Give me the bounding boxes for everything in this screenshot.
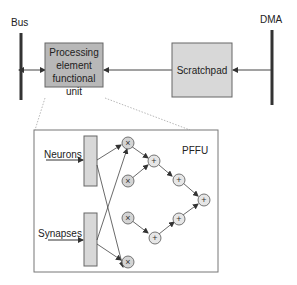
scratchpad-label: Scratchpad bbox=[172, 64, 232, 77]
dma-label: DMA bbox=[260, 14, 282, 25]
add-icon: + bbox=[176, 214, 181, 224]
pefu-label-line3: functional unit bbox=[45, 72, 103, 98]
synapses-label: Synapses bbox=[38, 228, 82, 239]
bus-label: Bus bbox=[11, 17, 28, 28]
zoom-line-left bbox=[35, 98, 45, 130]
multiply-icon: × bbox=[125, 138, 130, 148]
add-icon: + bbox=[152, 233, 157, 243]
neurons-label: Neurons bbox=[44, 149, 82, 160]
pefu-label: Processing element functional unit bbox=[45, 46, 103, 98]
add-icon: + bbox=[151, 156, 156, 166]
multiply-icon: × bbox=[125, 176, 130, 186]
add-icon: + bbox=[201, 195, 206, 205]
multiply-icon: × bbox=[125, 213, 130, 223]
architecture-diagram: × × × × + + + + + bbox=[0, 0, 297, 285]
zoom-line-right bbox=[105, 98, 190, 130]
multiply-icon: × bbox=[125, 257, 130, 267]
pefu-label-line1: Processing bbox=[45, 46, 103, 59]
neurons-buffer bbox=[84, 136, 97, 186]
synapses-buffer bbox=[84, 213, 97, 266]
add-icon: + bbox=[176, 175, 181, 185]
pffu-title: PFFU bbox=[182, 145, 208, 156]
pefu-label-line2: element bbox=[45, 59, 103, 72]
